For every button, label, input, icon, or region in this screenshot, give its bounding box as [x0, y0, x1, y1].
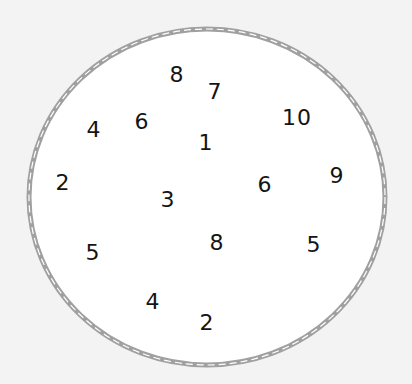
number-label: 4 [87, 119, 102, 141]
number-label: 9 [330, 165, 345, 187]
number-label: 3 [161, 189, 176, 211]
number-label: 1 [199, 132, 214, 154]
number-label: 7 [208, 81, 223, 103]
number-label: 2 [200, 312, 215, 334]
number-label: 6 [258, 174, 273, 196]
number-label: 2 [56, 172, 71, 194]
number-label: 4 [146, 291, 161, 313]
number-label: 8 [170, 64, 185, 86]
number-label: 6 [135, 111, 150, 133]
number-label: 5 [86, 242, 101, 264]
number-label: 5 [307, 234, 322, 256]
number-label: 8 [210, 232, 225, 254]
number-label: 10 [282, 107, 312, 129]
